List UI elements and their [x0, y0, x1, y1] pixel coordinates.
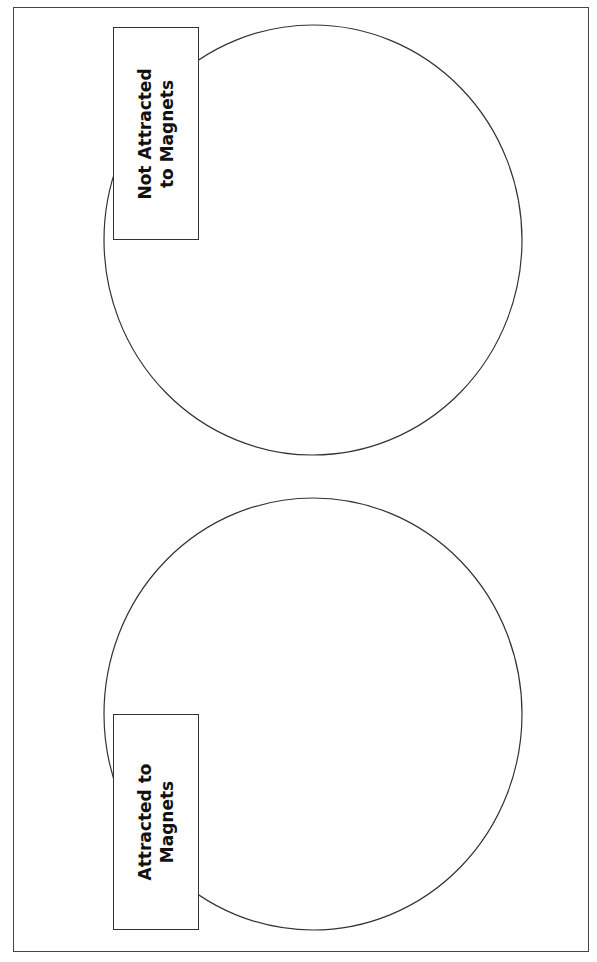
attracted-label: Attracted to Magnets	[134, 764, 178, 881]
not-attracted-label-line1: Not Attracted	[134, 68, 156, 199]
attracted-label-line1: Attracted to	[134, 764, 156, 881]
attracted-label-box: Attracted to Magnets	[113, 714, 199, 930]
not-attracted-label-line2: to Magnets	[156, 68, 178, 199]
not-attracted-label-box: Not Attracted to Magnets	[113, 27, 199, 240]
attracted-label-line2: Magnets	[156, 764, 178, 881]
circles-layer	[0, 0, 597, 962]
not-attracted-label: Not Attracted to Magnets	[134, 68, 178, 199]
